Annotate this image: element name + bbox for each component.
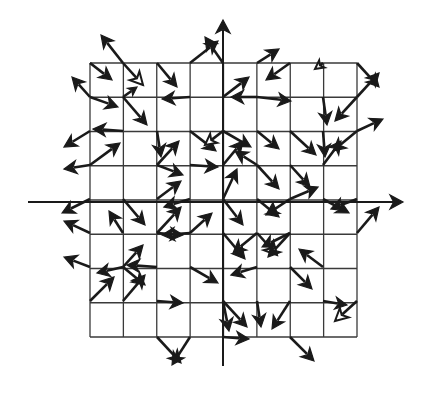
arrow-shaft bbox=[107, 267, 123, 271]
arrow-shaft bbox=[342, 97, 357, 114]
vector-arrow bbox=[290, 337, 314, 361]
vector-arrow bbox=[64, 131, 90, 147]
arrow-shaft bbox=[290, 131, 309, 148]
arrow-shaft bbox=[290, 267, 305, 282]
vector-arrow bbox=[123, 87, 137, 97]
vector-arrow bbox=[290, 165, 310, 187]
vector-arrow bbox=[90, 143, 120, 165]
vector-arrow bbox=[357, 73, 379, 97]
arrow-shaft bbox=[73, 261, 90, 267]
vector-arrow bbox=[164, 197, 190, 209]
vector-arrow bbox=[157, 63, 177, 87]
vector-arrow bbox=[64, 255, 90, 267]
arrow-shaft bbox=[357, 80, 372, 97]
vector-arrow bbox=[109, 211, 123, 233]
arrow-shaft bbox=[73, 225, 90, 233]
vector-arrow bbox=[268, 233, 290, 257]
vector-arrow bbox=[101, 35, 123, 63]
vector-arrow bbox=[257, 93, 291, 106]
arrow-shaft bbox=[357, 215, 373, 233]
arrow-shaft bbox=[223, 131, 242, 142]
arrow-shaft bbox=[241, 233, 257, 247]
arrow-shaft bbox=[257, 165, 272, 182]
vector-arrow bbox=[319, 97, 332, 125]
vector-arrow bbox=[262, 233, 290, 247]
arrow-shaft bbox=[277, 301, 290, 321]
arrow-shaft bbox=[114, 219, 123, 233]
vector-arrow bbox=[205, 131, 223, 145]
arrow-shaft bbox=[290, 337, 307, 354]
arrow-shaft bbox=[71, 199, 90, 209]
arrow-head-solid bbox=[98, 67, 112, 80]
vector-arrow bbox=[123, 275, 145, 301]
arrow-head-solid bbox=[235, 77, 249, 90]
arrow-shaft bbox=[137, 266, 157, 267]
arrow-shaft bbox=[107, 43, 123, 63]
vector-arrow bbox=[266, 63, 290, 80]
vector-arrow bbox=[123, 97, 147, 125]
vector-arrow bbox=[357, 118, 383, 131]
vector-arrow bbox=[90, 63, 112, 80]
arrow-shaft bbox=[274, 63, 290, 74]
vector-arrow bbox=[231, 91, 257, 104]
vector-arrow bbox=[157, 181, 181, 199]
arrow-shaft bbox=[103, 130, 123, 131]
vector-arrow bbox=[190, 160, 218, 173]
arrow-shaft bbox=[307, 255, 323, 267]
vector-arrow bbox=[257, 165, 279, 189]
arrow-shaft bbox=[290, 165, 303, 180]
vector-arrow bbox=[127, 259, 157, 272]
arrow-shaft bbox=[257, 54, 271, 63]
arrow-shaft bbox=[172, 233, 190, 234]
vector-arrow bbox=[64, 220, 90, 233]
vector-arrow bbox=[162, 228, 190, 241]
vector-arrow bbox=[290, 267, 312, 289]
arrow-shaft bbox=[323, 131, 324, 147]
arrow-head-solid bbox=[167, 181, 181, 194]
arrow-shaft bbox=[223, 178, 233, 199]
arrow-shaft bbox=[212, 131, 223, 140]
arrow-shaft bbox=[341, 131, 357, 145]
arrow-head-solid bbox=[328, 141, 341, 155]
arrow-shaft bbox=[157, 63, 171, 79]
vector-arrow bbox=[93, 123, 123, 136]
vector-arrow bbox=[290, 186, 318, 199]
vector-arrow bbox=[190, 267, 218, 283]
vector-arrow bbox=[357, 207, 379, 233]
arrow-shaft bbox=[90, 97, 109, 104]
arrow-shaft bbox=[172, 97, 190, 98]
arrow-shaft bbox=[123, 283, 139, 301]
arrow-shaft bbox=[74, 165, 90, 167]
arrow-shaft bbox=[123, 63, 136, 78]
vector-arrow bbox=[205, 37, 223, 63]
vector-arrow bbox=[231, 265, 257, 277]
arrow-shaft bbox=[123, 97, 140, 117]
vector-arrow bbox=[162, 92, 190, 105]
vector-arrow bbox=[64, 161, 90, 174]
vector-arrow bbox=[257, 49, 279, 63]
arrow-shaft bbox=[243, 156, 257, 165]
arrow-shaft bbox=[157, 187, 173, 199]
arrow-shaft bbox=[290, 191, 309, 199]
vector-arrow bbox=[190, 213, 212, 233]
vector-arrow bbox=[157, 296, 183, 309]
arrow-shaft bbox=[177, 337, 190, 357]
vector-arrow bbox=[223, 332, 249, 345]
arrow-shaft bbox=[257, 131, 271, 143]
arrow-shaft bbox=[123, 91, 131, 97]
arrow-shaft bbox=[90, 63, 104, 74]
vector-arrow bbox=[235, 151, 257, 165]
vector-arrow bbox=[257, 131, 279, 149]
arrow-shaft bbox=[157, 337, 174, 356]
arrow-shaft bbox=[357, 123, 374, 131]
arrow-shaft bbox=[190, 220, 205, 233]
arrow-shaft bbox=[90, 284, 107, 301]
arrow-shaft bbox=[190, 165, 208, 166]
vector-arrow bbox=[299, 249, 323, 267]
vector-field-figure bbox=[0, 0, 421, 394]
vector-arrow bbox=[153, 131, 166, 157]
arrow-head-solid bbox=[272, 315, 284, 329]
vector-arrow bbox=[157, 207, 181, 233]
vector-arrow bbox=[123, 63, 143, 85]
vector-arrow bbox=[290, 131, 316, 155]
